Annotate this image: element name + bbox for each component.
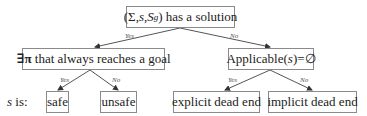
row-label-text: is: <box>12 94 28 109</box>
right-question-suffix: )=∅ <box>293 51 316 67</box>
edge-root-yes <box>95 28 180 47</box>
root-prefix: (Σ, <box>124 9 139 25</box>
edge-label-left-no: No <box>112 76 120 84</box>
decision-tree-diagram: (Σ,s,Sg) has a solution Yes No ∃π that a… <box>0 0 367 116</box>
leaf-safe: safe <box>46 91 69 113</box>
right-question-node: Applicable(s)=∅ <box>228 48 314 70</box>
edge-label-left-yes: Yes <box>60 76 69 84</box>
edge-label-right-yes: Yes <box>228 76 237 84</box>
left-question-text: that always reaches a goal <box>32 51 171 67</box>
leaf-unsafe: unsafe <box>100 91 137 113</box>
exists-pi-symbol: ∃π <box>16 51 31 67</box>
root-suffix: ) has a solution <box>158 9 237 25</box>
root-node: (Σ,s,Sg) has a solution <box>126 6 235 28</box>
edge-label-root-yes: Yes <box>125 32 134 40</box>
edge-label-right-no: No <box>300 76 308 84</box>
leaf-explicit-dead-end: explicit dead end <box>173 91 260 113</box>
right-question-prefix: Applicable( <box>226 51 287 67</box>
edge-root-no <box>180 28 270 47</box>
left-question-node: ∃π that always reaches a goal <box>22 48 165 70</box>
edge-label-root-no: No <box>230 32 238 40</box>
leaf-implicit-dead-end: implicit dead end <box>268 91 357 113</box>
row-label: s is: <box>7 94 28 110</box>
